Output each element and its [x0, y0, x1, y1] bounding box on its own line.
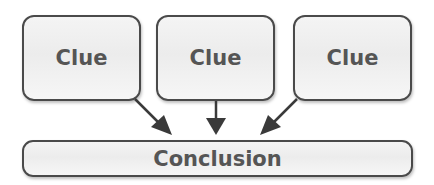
- conclusion-box: Conclusion: [22, 140, 413, 177]
- arrow-line-3: [272, 99, 297, 124]
- clue-conclusion-diagram: Clue Clue Clue Conclusion: [0, 0, 434, 185]
- conclusion-label: Conclusion: [153, 147, 281, 171]
- arrow-line-1: [135, 99, 160, 124]
- arrow-head-2: [206, 118, 226, 135]
